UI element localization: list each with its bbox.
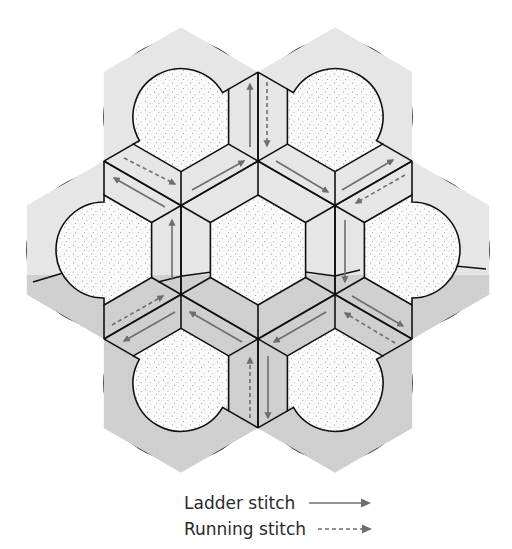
legend-running-stitch: Running stitch xyxy=(184,519,376,539)
legend-ladder-stitch: Ladder stitch xyxy=(184,493,375,513)
legend-running-label: Running stitch xyxy=(184,519,306,539)
legend-ladder-label: Ladder stitch xyxy=(184,493,295,513)
hexagon-flower-diagram xyxy=(0,0,512,549)
ladder-stitch-arrow-icon xyxy=(305,497,375,509)
running-stitch-arrow-icon xyxy=(316,523,376,535)
outline-layer xyxy=(27,28,489,473)
